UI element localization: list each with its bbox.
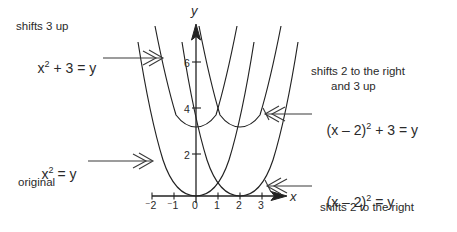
x-tick-label-zero: 0 — [192, 199, 198, 211]
annotation-top-left-equation: x2 + 3 = y — [22, 44, 96, 92]
x-tick-label-3: 3 — [258, 199, 264, 211]
x-tick-label-neg1: ⁻1 — [167, 199, 178, 211]
y-axis — [192, 24, 202, 203]
arrow-top-left — [103, 50, 163, 66]
x-axis-label: x — [290, 190, 297, 205]
annotation-top-right-note-line2: and 3 up — [331, 80, 376, 93]
x-tick-label-1: 1 — [214, 199, 220, 211]
figure-canvas: y x ⁻2 ⁻1 0 1 2 3 2 4 6 shifts 3 up x2 +… — [0, 0, 457, 232]
annotation-bottom-right-note: shifts 2 to the right — [320, 201, 414, 214]
annotation-top-right-note-line1: shifts 2 to the right — [311, 65, 405, 78]
y-tick-label-4: 4 — [184, 103, 190, 115]
equation-prefix: (x – 2) — [327, 122, 367, 138]
annotation-bottom-left-note: original — [18, 176, 55, 189]
y-axis-label: y — [191, 4, 198, 19]
annotation-top-left-note: shifts 3 up — [16, 20, 68, 33]
equation-rest: + 3 = y — [371, 122, 418, 138]
y-tick-label-2: 2 — [184, 149, 190, 161]
equation-rest: = y — [54, 166, 77, 182]
equation-base: x — [38, 60, 45, 76]
arrow-top-right — [263, 106, 312, 122]
annotation-bottom-left-equation: x2 = y — [26, 150, 77, 198]
x-tick-label-neg2: ⁻2 — [145, 199, 156, 211]
equation-rest: + 3 = y — [50, 60, 97, 76]
arrow-bottom-left — [88, 153, 153, 169]
y-tick-label-6: 6 — [184, 57, 190, 69]
annotation-top-right-equation: (x – 2)2 + 3 = y — [311, 106, 418, 154]
x-tick-label-2: 2 — [236, 199, 242, 211]
